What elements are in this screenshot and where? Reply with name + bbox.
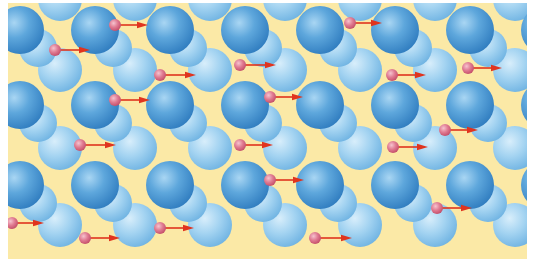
lattice-canvas (8, 3, 527, 259)
electron-dot (154, 222, 166, 234)
electron-dot (109, 94, 121, 106)
ion-large (296, 6, 344, 54)
ion-large (371, 161, 419, 209)
electron-dot (439, 124, 451, 136)
electron-dot (264, 91, 276, 103)
ion-large (146, 161, 194, 209)
electron-dot (74, 139, 86, 151)
electron-dot (109, 19, 121, 31)
electron-dot (431, 202, 443, 214)
ion-large (446, 6, 494, 54)
electron-dot (234, 59, 246, 71)
ion-large (221, 81, 269, 129)
ion-pairs-layer (8, 6, 527, 222)
ion-large (221, 161, 269, 209)
ion-large (446, 161, 494, 209)
electron-dot (154, 69, 166, 81)
electron-dot (387, 141, 399, 153)
ion-large (71, 161, 119, 209)
ion-large (221, 6, 269, 54)
caption-clipped (8, 262, 527, 278)
electron-dot (386, 69, 398, 81)
ion-large (146, 6, 194, 54)
ion-large (296, 161, 344, 209)
ion-large (371, 6, 419, 54)
electron-dot (462, 62, 474, 74)
electron-dot (264, 174, 276, 186)
ion-large (371, 81, 419, 129)
electron-dot (309, 232, 321, 244)
electron-dot (79, 232, 91, 244)
electron-dot (344, 17, 356, 29)
ion-large (146, 81, 194, 129)
electron-dot (49, 44, 61, 56)
metal-lattice-illustration (8, 3, 527, 259)
ion-large (446, 81, 494, 129)
ion-large (296, 81, 344, 129)
electron-dot (234, 139, 246, 151)
